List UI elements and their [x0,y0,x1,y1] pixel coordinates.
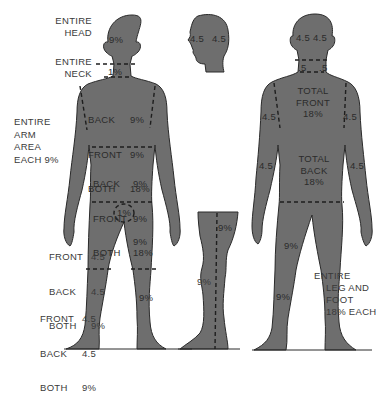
thigh-right-value: 9% [133,236,147,248]
back-neck-right-value: .5 [319,62,328,74]
head-value: 9% [109,34,123,46]
back-neck-left-value: .5 [298,62,307,74]
neck-value: 1% [108,66,122,78]
back-upper-arm-right-value: 4.5 [343,111,357,123]
total-front-label: TOTALFRONT18% [288,85,338,120]
entire-neck-label: ENTIRENECK [20,56,92,79]
back-head-left-value: 4.5 [296,32,310,44]
back-lower-arm-right-value: 4.5 [350,160,364,172]
back-head-right-value: 4.5 [313,32,327,44]
back-lower-arm-left-value: 4.5 [259,160,273,172]
side-leg-upper-value: 9% [218,222,232,234]
side-head-left-value: 4.5 [190,33,204,45]
entire-head-label: ENTIREHEAD [20,15,92,38]
entire-arm-label: ENTIREARMAREAEACH 9% [14,116,59,166]
back-thigh-value: 9% [284,240,298,252]
side-head-right-value: 4.5 [212,33,226,45]
back-upper-arm-left-value: 4.5 [262,111,276,123]
lower-leg-left-values: FRONT4.5 BACK4.5 BOTH9% [40,290,96,395]
lower-leg-right-value: 9% [139,292,153,304]
back-lower-leg-value: 9% [276,291,290,303]
total-back-label: TOTALBACK18% [288,153,340,188]
side-leg-lower-value: 9% [197,276,211,288]
groin-value: 1% [117,207,131,219]
entire-leg-foot-label: ENTIRELEG ANDFOOT18% EACH [314,270,376,318]
